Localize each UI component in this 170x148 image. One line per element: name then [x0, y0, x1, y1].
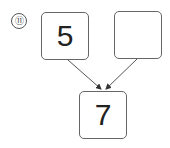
arrow-left-icon [68, 60, 101, 89]
arrow-right-icon [106, 59, 137, 89]
arrows [0, 0, 170, 148]
